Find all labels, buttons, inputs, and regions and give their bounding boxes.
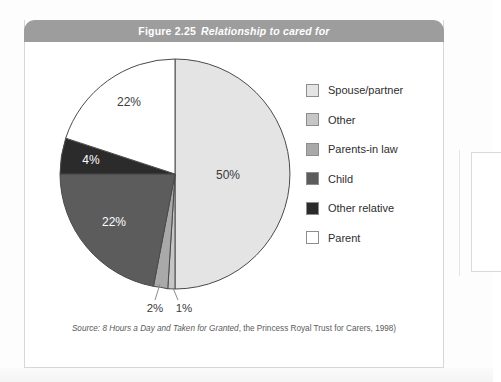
pie-label-parent: 22% xyxy=(117,95,141,109)
figure-header-text: Figure 2.25Relationship to cared for xyxy=(138,25,329,37)
legend-label-other-relative: Other relative xyxy=(328,202,394,214)
legend-label-parents-in-law: Parents-in law xyxy=(328,143,398,155)
figure-title: Relationship to cared for xyxy=(201,25,330,37)
legend-item-other[interactable]: Other xyxy=(306,110,456,130)
source-title: 8 Hours a Day and Taken for Granted xyxy=(102,324,238,333)
pie-svg: 50% 22% 4% 22% xyxy=(56,50,296,302)
legend-swatch-parents-in-law xyxy=(306,143,319,156)
adjacent-box-partial xyxy=(471,152,501,272)
legend-swatch-child xyxy=(306,172,319,185)
legend-item-parents-in-law[interactable]: Parents-in law xyxy=(306,139,456,159)
source-rest: , the Princess Royal Trust for Carers, 1… xyxy=(239,324,396,333)
legend-label-child: Child xyxy=(328,173,353,185)
page-margin-rule xyxy=(459,150,460,276)
legend-swatch-parent xyxy=(306,231,319,244)
pie-label-parents-in-law: 2% xyxy=(147,302,164,314)
pie-label-spouse-partner: 50% xyxy=(216,168,240,182)
legend-item-parent[interactable]: Parent xyxy=(306,228,456,248)
pie-label-child: 22% xyxy=(102,215,126,229)
figure-number: Figure 2.25 xyxy=(138,25,196,37)
legend-item-child[interactable]: Child xyxy=(306,169,456,189)
pie-label-other: 1% xyxy=(176,302,193,314)
pie-chart: 50% 22% 4% 22% 2% 1% xyxy=(56,50,296,300)
legend-label-other: Other xyxy=(328,114,356,126)
page-edge-bottom xyxy=(0,368,493,382)
legend-swatch-spouse-partner xyxy=(306,84,319,97)
legend-item-spouse-partner[interactable]: Spouse/partner xyxy=(306,80,456,100)
source-prefix: Source: xyxy=(72,324,103,333)
pie-label-other-relative: 4% xyxy=(82,153,100,167)
figure-source: Source: 8 Hours a Day and Taken for Gran… xyxy=(24,324,444,333)
legend-swatch-other-relative xyxy=(306,202,319,215)
chart-area: 50% 22% 4% 22% 2% 1% Spouse/partner Othe… xyxy=(24,42,444,368)
legend-label-spouse-partner: Spouse/partner xyxy=(328,84,403,96)
legend-label-parent: Parent xyxy=(328,232,360,244)
figure-header-bar: Figure 2.25Relationship to cared for xyxy=(24,20,444,42)
legend-swatch-other xyxy=(306,113,319,126)
legend: Spouse/partner Other Parents-in law Chil… xyxy=(306,80,456,257)
legend-item-other-relative[interactable]: Other relative xyxy=(306,198,456,218)
pie-callouts: 2% 1% xyxy=(56,298,296,322)
